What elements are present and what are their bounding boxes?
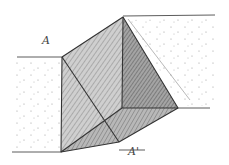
label-a-prime: A'	[127, 145, 139, 158]
label-a: A	[41, 34, 50, 47]
sketch-canvas: A A'	[0, 0, 229, 165]
left-ground-stipple	[14, 60, 60, 148]
